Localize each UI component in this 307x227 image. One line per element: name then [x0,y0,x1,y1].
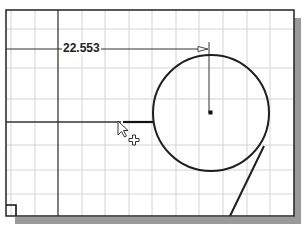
sketch-canvas[interactable] [0,0,307,227]
circle-center-point[interactable] [209,111,213,115]
canvas-background [6,10,294,216]
dimension-value-label[interactable]: 22.553 [62,41,101,55]
